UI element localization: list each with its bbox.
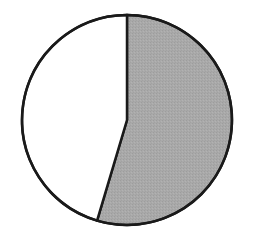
pie-chart bbox=[0, 0, 259, 239]
pie-chart-svg bbox=[0, 0, 259, 239]
